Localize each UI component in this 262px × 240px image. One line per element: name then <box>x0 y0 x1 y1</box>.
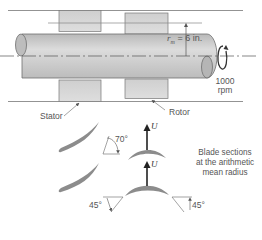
rotor-inlet-angle-45 <box>103 197 123 212</box>
caption-line: mean radius <box>188 168 262 178</box>
rotor-label: Rotor <box>169 108 190 117</box>
speed-unit: rpm <box>213 86 237 95</box>
caption-line: Blade sections <box>188 148 262 158</box>
stator-label: Stator <box>40 112 63 121</box>
speed-label: 1000 rpm <box>213 77 237 96</box>
rotation-arrow-icon <box>218 45 229 69</box>
caption-line: at the arithmetic <box>188 158 262 168</box>
stator-blade-sections <box>59 122 99 192</box>
blade-sections-caption: Blade sections at the arithmetic mean ra… <box>188 148 262 178</box>
stator-angle-label: 70° <box>115 135 128 144</box>
rotor-exit-angle-label: 45° <box>192 201 205 210</box>
rotor-inlet-angle-label: 45° <box>89 201 102 210</box>
mean-radius-label: rm = 6 in. <box>167 34 202 45</box>
shaft <box>0 34 258 78</box>
stator-leader <box>64 104 78 116</box>
blade-speed-label-bottom: U <box>151 160 158 170</box>
rotor-blade-section-bottom <box>125 161 169 196</box>
rotor-exit-angle-45 <box>172 197 192 212</box>
rotor-blade-section-top <box>128 124 166 160</box>
rotor-leader <box>153 101 165 110</box>
blade-speed-label-top: U <box>151 122 158 132</box>
